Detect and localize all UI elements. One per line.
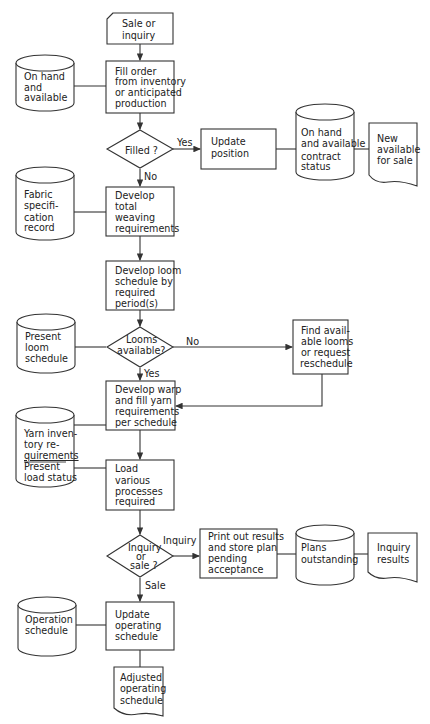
svg-text:total: total: [115, 201, 137, 212]
svg-text:Adjusted: Adjusted: [120, 672, 162, 683]
svg-text:available: available: [24, 92, 67, 103]
node-looms-decision: Looms available?: [107, 327, 173, 367]
svg-text:quirements: quirements: [24, 450, 79, 461]
svg-text:status: status: [301, 161, 330, 172]
svg-text:Update: Update: [115, 609, 150, 620]
svg-text:tory re-: tory re-: [24, 439, 59, 450]
svg-text:Yarn inven-: Yarn inven-: [23, 428, 77, 439]
svg-text:reschedule: reschedule: [300, 358, 353, 369]
svg-text:Develop: Develop: [115, 190, 155, 201]
svg-text:requirements: requirements: [115, 406, 179, 417]
svg-text:inquiry: inquiry: [122, 30, 156, 41]
edge-label-filled-no: No: [144, 171, 157, 182]
svg-text:operating: operating: [120, 683, 166, 694]
svg-text:Inquiry: Inquiry: [377, 542, 411, 553]
node-filled-decision: Filled ?: [107, 130, 173, 168]
svg-text:On hand: On hand: [24, 71, 65, 82]
node-new-available: New available for sale: [369, 123, 420, 186]
svg-text:requirements: requirements: [115, 223, 179, 234]
node-warp-fill: Develop warp and fill yarn requirements …: [106, 381, 181, 430]
svg-text:Develop warp: Develop warp: [115, 384, 181, 395]
node-loom-schedule: Develop loom schedule by required period…: [106, 261, 181, 310]
node-plans-outstanding: Plans outstanding: [296, 525, 358, 585]
node-present-loom: Present loom schedule: [17, 314, 75, 373]
svg-text:pending: pending: [208, 553, 247, 564]
edge-label-sale: Sale: [145, 580, 166, 591]
svg-text:Fabric: Fabric: [24, 189, 53, 200]
svg-text:outstanding: outstanding: [301, 554, 358, 565]
edge-label-looms-no: No: [186, 336, 199, 347]
svg-text:per schedule: per schedule: [115, 417, 177, 428]
svg-text:Update: Update: [211, 136, 246, 147]
svg-text:period(s): period(s): [115, 298, 158, 309]
svg-text:Find avail-: Find avail-: [301, 325, 350, 336]
svg-text:various: various: [115, 475, 150, 486]
node-fabric-spec: Fabric specifi- cation record: [16, 167, 74, 240]
svg-text:from inventory: from inventory: [115, 76, 186, 87]
svg-text:or anticipated: or anticipated: [115, 87, 182, 98]
svg-text:specifi-: specifi-: [24, 200, 58, 211]
node-yarn-inventory: Yarn inven- tory re- quirements Present …: [16, 407, 79, 487]
node-on-hand-available: On hand and available: [16, 55, 74, 111]
svg-text:Plans: Plans: [301, 542, 326, 553]
svg-text:available?: available?: [117, 345, 165, 356]
svg-text:and fill yarn: and fill yarn: [115, 395, 172, 406]
svg-text:schedule by: schedule by: [115, 276, 173, 287]
node-update-position: Update position: [201, 129, 276, 169]
node-load-processes: Load various processes required: [106, 460, 174, 510]
svg-text:for sale: for sale: [377, 155, 413, 166]
svg-text:position: position: [211, 148, 249, 159]
edge-label-filled-yes: Yes: [176, 137, 193, 148]
svg-text:Present: Present: [24, 461, 60, 472]
svg-text:New: New: [377, 133, 398, 144]
svg-text:results: results: [377, 554, 409, 565]
svg-text:Looms: Looms: [126, 334, 157, 345]
svg-text:Print out results: Print out results: [208, 531, 284, 542]
svg-text:schedule: schedule: [120, 695, 163, 706]
svg-text:schedule: schedule: [25, 353, 68, 364]
svg-text:operating: operating: [115, 620, 161, 631]
svg-text:schedule: schedule: [115, 631, 158, 642]
svg-text:acceptance: acceptance: [208, 564, 263, 575]
svg-text:load status: load status: [24, 472, 77, 483]
svg-text:On hand: On hand: [301, 127, 342, 138]
node-adjusted-operating: Adjusted operating schedule: [114, 667, 166, 716]
node-print-results: Print out results and store plan pending…: [200, 529, 284, 578]
node-contract-status: On hand and available contract status: [296, 104, 365, 180]
svg-text:schedule: schedule: [25, 625, 68, 636]
node-find-looms: Find avail- able looms or request resche…: [293, 320, 353, 374]
svg-text:Load: Load: [115, 463, 138, 474]
flowchart-canvas: Yes No No Yes Inquiry Sale Sale or inqui…: [0, 0, 430, 724]
node-update-operating: Update operating schedule: [106, 602, 174, 650]
svg-text:production: production: [115, 98, 167, 109]
node-operation-schedule: Operation schedule: [18, 597, 76, 656]
svg-text:and available: and available: [301, 138, 365, 149]
svg-text:Sale or: Sale or: [122, 18, 155, 29]
node-sale-or-inquiry: Sale or inquiry: [107, 13, 173, 44]
node-weaving-requirements: Develop total weaving requirements: [106, 187, 179, 236]
svg-text:required: required: [115, 287, 155, 298]
svg-text:Present: Present: [25, 331, 61, 342]
svg-text:able looms: able looms: [301, 336, 353, 347]
svg-text:Operation: Operation: [25, 614, 73, 625]
svg-text:available: available: [377, 144, 420, 155]
svg-text:Filled ?: Filled ?: [125, 145, 158, 156]
svg-text:loom: loom: [25, 342, 49, 353]
svg-text:or request: or request: [301, 347, 351, 358]
edge-label-looms-yes: Yes: [143, 368, 160, 379]
svg-text:record: record: [24, 222, 55, 233]
edge-label-inquiry: Inquiry: [163, 535, 197, 546]
node-inquiry-results: Inquiry results: [368, 533, 417, 582]
svg-text:and store plan: and store plan: [208, 542, 277, 553]
svg-text:sale ?: sale ?: [130, 560, 158, 571]
svg-text:required: required: [115, 496, 155, 507]
svg-text:weaving: weaving: [115, 212, 155, 223]
svg-text:Develop loom: Develop loom: [115, 265, 181, 276]
node-fill-order: Fill order from inventory or anticipated…: [106, 61, 186, 113]
